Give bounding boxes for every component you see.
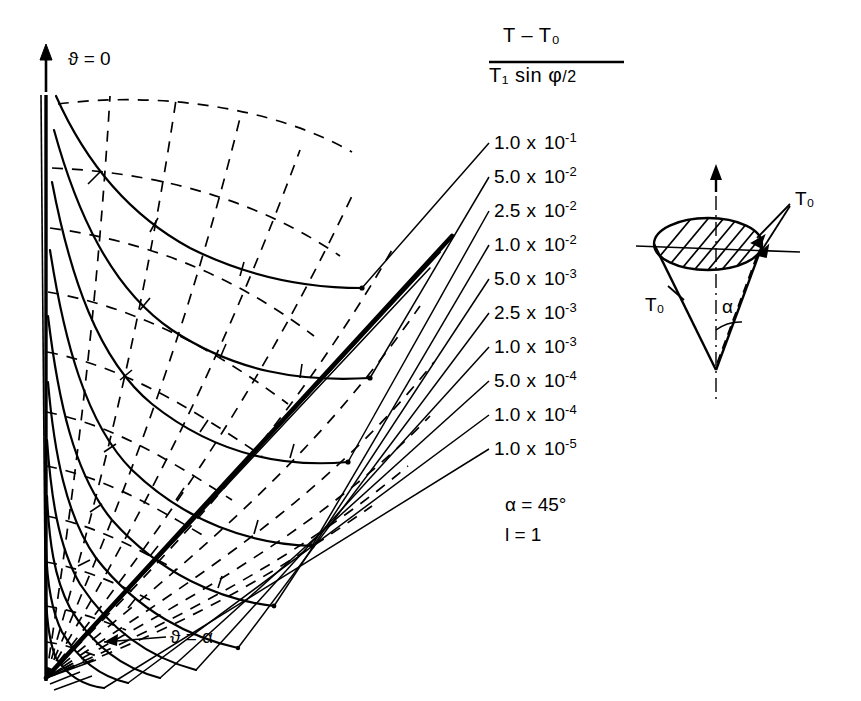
- contour-label-exponent: -5: [565, 436, 577, 451]
- contour-label-times: x: [526, 234, 536, 255]
- contour-label-exponent: -3: [565, 300, 577, 315]
- leader-line-10: [104, 449, 489, 688]
- parameter-list: α = 45°l = 1: [505, 490, 566, 550]
- isotherm-curve-1: [56, 96, 362, 288]
- contour-label-base: 10: [544, 438, 565, 459]
- contour-label-times: x: [526, 370, 536, 391]
- axis-label-bottom: ϑ = α: [170, 626, 213, 648]
- contour-label-times: x: [526, 336, 536, 357]
- contour-label-base: 10: [544, 404, 565, 425]
- contour-label-base: 10: [544, 166, 565, 187]
- leader-line-7: [196, 347, 489, 670]
- contour-label-mantissa: 1.0: [494, 132, 520, 153]
- contour-label-times: x: [526, 132, 536, 153]
- contour-label-mantissa: 5.0: [494, 268, 520, 289]
- label-leader-lines: [104, 143, 489, 688]
- contour-label-mantissa: 1.0: [494, 404, 520, 425]
- leader-anchor-dots: [236, 285, 373, 650]
- contour-label-exponent: -2: [565, 198, 577, 213]
- contour-label-list: 1.0x10-15.0x10-22.5x10-21.0x10-25.0x10-3…: [494, 0, 664, 701]
- inset-label-t0-top: T₀: [795, 188, 815, 210]
- contour-label-exponent: -4: [565, 402, 577, 417]
- contour-label-times: x: [526, 438, 536, 459]
- contour-label-exponent: -4: [565, 368, 577, 383]
- contour-label-base: 10: [544, 200, 565, 221]
- contour-label-base: 10: [544, 336, 565, 357]
- contour-label-base: 10: [544, 132, 565, 153]
- contour-label: 1.0x10-3: [494, 334, 577, 358]
- inset-label-alpha: α: [722, 296, 733, 318]
- contour-label-times: x: [526, 268, 536, 289]
- contour-label-mantissa: 5.0: [494, 166, 520, 187]
- contour-label-base: 10: [544, 370, 565, 391]
- contour-label-times: x: [526, 302, 536, 323]
- contour-label-base: 10: [544, 268, 565, 289]
- contour-label: 5.0x10-3: [494, 266, 577, 290]
- contour-label-base: 10: [544, 302, 565, 323]
- contour-label-mantissa: 5.0: [494, 370, 520, 391]
- contour-label-exponent: -3: [565, 266, 577, 281]
- parameter-item: l = 1: [505, 520, 566, 550]
- contour-label-mantissa: 2.5: [494, 302, 520, 323]
- isotherm-curve-4: [50, 250, 312, 546]
- contour-label: 5.0x10-2: [494, 164, 577, 188]
- parameter-item: α = 45°: [505, 490, 566, 520]
- leader-line-2: [370, 177, 489, 378]
- contour-label-mantissa: 1.0: [494, 336, 520, 357]
- contour-label: 1.0x10-5: [494, 436, 577, 460]
- dashed-grid: [46, 96, 434, 678]
- contour-label-times: x: [526, 166, 536, 187]
- leader-line-6: [238, 313, 489, 648]
- isotherm-figure: [0, 0, 861, 701]
- contour-label: 5.0x10-4: [494, 368, 577, 392]
- contour-label-exponent: -3: [565, 334, 577, 349]
- cone-t0-arrows: [752, 204, 790, 257]
- contour-label-times: x: [526, 404, 536, 425]
- contour-label-mantissa: 1.0: [494, 234, 520, 255]
- figure-container: T – T₀ T₁ sin φ/2 ϑ = 0 ϑ = α 1.0x10-15.…: [0, 0, 861, 701]
- contour-label: 1.0x10-2: [494, 232, 577, 256]
- contour-label: 2.5x10-2: [494, 198, 577, 222]
- contour-label: 2.5x10-3: [494, 300, 577, 324]
- contour-label: 1.0x10-1: [494, 130, 577, 154]
- contour-label-mantissa: 2.5: [494, 200, 520, 221]
- contour-label-exponent: -2: [565, 164, 577, 179]
- contour-label-exponent: -1: [565, 130, 577, 145]
- axis-label-top: ϑ = 0: [68, 48, 111, 70]
- isotherm-curve-8: [47, 496, 160, 678]
- isotherm-curve-5: [48, 316, 274, 606]
- vertical-axis: [40, 44, 52, 681]
- inset-label-t0-left: T₀: [645, 294, 665, 316]
- contour-label-times: x: [526, 200, 536, 221]
- isotherm-curve-6: [48, 382, 238, 648]
- contour-label-exponent: -2: [565, 232, 577, 247]
- contour-label: 1.0x10-4: [494, 402, 577, 426]
- contour-label-base: 10: [544, 234, 565, 255]
- contour-label-mantissa: 1.0: [494, 438, 520, 459]
